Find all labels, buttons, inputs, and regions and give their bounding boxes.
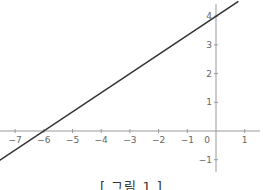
x-tick-label: −7 [8, 135, 21, 145]
x-tick-label: 0 [204, 135, 210, 145]
figure-caption: [ 그림 1 ] [0, 176, 263, 190]
y-tick-label: 3 [206, 40, 212, 50]
axes [0, 4, 260, 172]
series [0, 1, 238, 160]
x-tick-label: −5 [66, 135, 79, 145]
y-tick-label: 2 [206, 69, 212, 79]
x-tick-label: −1 [181, 135, 194, 145]
y-tick-label: 1 [206, 97, 212, 107]
ticks: −7−6−5−4−3−2−101−11234 [8, 11, 247, 165]
x-tick-label: −2 [152, 135, 165, 145]
chart: −7−6−5−4−3−2−101−11234 [0, 0, 263, 190]
x-tick-label: −4 [95, 135, 109, 145]
series-line [0, 1, 238, 160]
y-tick-label: −1 [199, 155, 212, 165]
x-tick-label: −3 [123, 135, 136, 145]
x-tick-label: −6 [37, 135, 51, 145]
x-tick-label: 1 [242, 135, 248, 145]
